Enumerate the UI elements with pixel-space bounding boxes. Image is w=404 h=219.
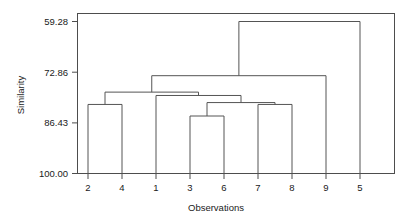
y-axis-tick-labels: 59.28 72.86 86.43 100.00 (39, 16, 68, 179)
x-axis-ticks (88, 174, 360, 180)
dendrogram-figure: 59.28 72.86 86.43 100.00 Similarity 2 4 … (0, 0, 404, 219)
plot-frame (78, 14, 395, 174)
y-tick-label-2: 86.43 (44, 117, 68, 128)
dendrogram-link-m3 (258, 104, 292, 173)
dendrogram-links (88, 22, 360, 174)
y-tick-label-3: 100.00 (39, 168, 68, 179)
y-axis-ticks (72, 22, 78, 174)
dendrogram-link-m5 (156, 95, 241, 173)
dendrogram-link-m8 (239, 22, 360, 174)
x-axis-title: Observations (188, 202, 244, 213)
x-axis-leaf-labels: 2 4 1 3 6 7 8 9 5 (85, 182, 362, 193)
leaf-label-7: 7 (255, 182, 260, 193)
leaf-label-3: 3 (187, 182, 192, 193)
y-axis-title: Similarity (15, 75, 26, 114)
dendrogram-plot: 59.28 72.86 86.43 100.00 Similarity 2 4 … (0, 0, 404, 219)
dendrogram-link-m1 (88, 104, 122, 173)
leaf-label-4: 4 (119, 182, 124, 193)
y-tick-label-1: 72.86 (44, 67, 68, 78)
leaf-label-1: 1 (153, 182, 158, 193)
dendrogram-link-m6 (105, 92, 199, 104)
dendrogram-link-m7 (152, 76, 326, 174)
leaf-label-2: 2 (85, 182, 90, 193)
dendrogram-link-m2 (190, 116, 224, 173)
leaf-label-6: 6 (221, 182, 226, 193)
leaf-label-9: 9 (323, 182, 328, 193)
leaf-label-8: 8 (289, 182, 294, 193)
y-tick-label-0: 59.28 (44, 16, 68, 27)
leaf-label-5: 5 (357, 182, 362, 193)
